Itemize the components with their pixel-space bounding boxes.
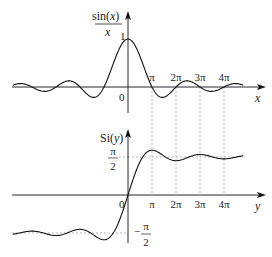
bottom-tick-label-1: π [149, 198, 155, 210]
lower-asymptote-numerator: π [143, 220, 149, 232]
bottom-plot: Si(y) π 2 − π 2 0 y π2π3π4π [12, 129, 266, 248]
lower-asymptote-denominator: 2 [143, 236, 149, 248]
top-tick-label-4: 4π [218, 71, 230, 83]
top-plot: sin(x) x 1 0 x π2π3π4π [12, 9, 266, 113]
top-peak-label: 1 [120, 30, 126, 42]
bottom-x-axis-label: y [254, 199, 261, 213]
top-tick-label-1: π [149, 71, 155, 83]
dashed-guides [12, 87, 245, 233]
top-tick-label-3: 3π [194, 71, 206, 83]
bottom-origin-label: 0 [119, 198, 125, 210]
bottom-tick-label-3: 3π [194, 198, 206, 210]
lower-asymptote-sign: − [134, 225, 140, 237]
bottom-tick-label-2: 2π [170, 198, 182, 210]
top-origin-label: 0 [119, 91, 125, 103]
upper-asymptote-numerator: π [110, 145, 116, 157]
bottom-tick-labels: π2π3π4π [149, 198, 230, 210]
upper-asymptote-denominator: 2 [110, 160, 116, 172]
top-tick-label-2: 2π [170, 71, 182, 83]
bottom-tick-label-4: 4π [218, 198, 230, 210]
sinc-si-diagram: sin(x) x 1 0 x π2π3π4π Si(y) π 2 − π 2 0… [0, 0, 272, 257]
top-ylabel-numerator: sin(x) [92, 9, 119, 23]
top-x-axis-label: x [254, 91, 261, 105]
top-ylabel-denominator: x [104, 25, 111, 39]
bottom-ylabel: Si(y) [100, 131, 123, 145]
